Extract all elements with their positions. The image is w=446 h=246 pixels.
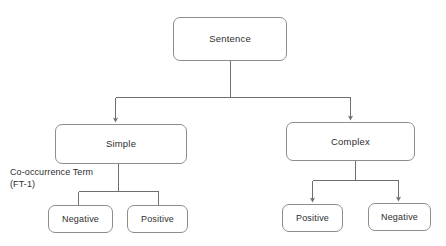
node-complex[interactable]: Complex — [286, 122, 415, 161]
node-simple[interactable]: Simple — [55, 124, 187, 164]
node-simple-positive-label: Positive — [141, 215, 174, 224]
node-simple-label: Simple — [106, 139, 136, 149]
node-complex-negative-label: Negative — [381, 213, 418, 222]
node-simple-positive[interactable]: Positive — [127, 205, 188, 233]
annotation-line-2: (FT-1) — [10, 179, 125, 191]
node-complex-positive[interactable]: Positive — [282, 204, 343, 232]
node-sentence-label: Sentence — [209, 34, 251, 44]
node-sentence[interactable]: Sentence — [173, 17, 287, 61]
node-complex-positive-label: Positive — [296, 214, 329, 223]
node-complex-label: Complex — [331, 137, 370, 147]
annotation-cooccurrence-term: Co-occurrence Term (FT-1) — [10, 167, 125, 190]
node-complex-negative[interactable]: Negative — [368, 203, 431, 231]
annotation-line-1: Co-occurrence Term — [10, 167, 125, 179]
node-simple-negative-label: Negative — [62, 215, 99, 224]
node-simple-negative[interactable]: Negative — [48, 205, 113, 233]
diagram-canvas: Sentence Simple Complex Negative Positiv… — [0, 0, 446, 246]
